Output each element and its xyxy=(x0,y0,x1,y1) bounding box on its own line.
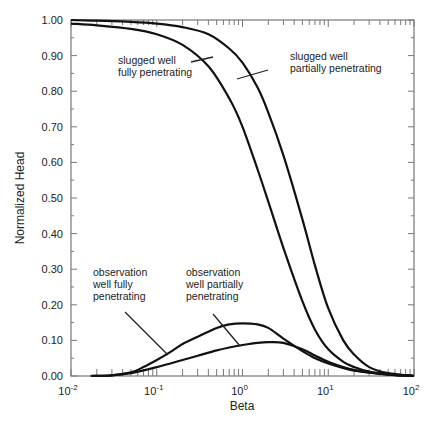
y-tick-label: 0.30 xyxy=(42,263,63,275)
annotation-leader xyxy=(213,314,240,346)
x-axis: 10-210-1100101102 xyxy=(58,20,420,397)
y-tick-label: 0.00 xyxy=(42,370,63,382)
chart: 0.000.100.200.300.400.500.600.700.800.90… xyxy=(0,0,435,427)
series-line xyxy=(91,342,414,376)
x-axis-title: Beta xyxy=(230,399,255,413)
x-tick-label: 102 xyxy=(403,383,420,397)
y-tick-label: 0.70 xyxy=(42,121,63,133)
y-tick-label: 0.20 xyxy=(42,299,63,311)
annotation-text: slugged well xyxy=(290,50,348,62)
annotation-text: observation xyxy=(93,266,147,278)
annotation-text: partially penetrating xyxy=(290,62,382,74)
annotation-text: fully penetrating xyxy=(118,66,192,78)
y-tick-label: 0.50 xyxy=(42,192,63,204)
x-tick-label: 100 xyxy=(231,383,248,397)
annotation-text: well partially xyxy=(185,278,244,290)
annotation-leader xyxy=(191,57,213,62)
y-tick-label: 0.60 xyxy=(42,156,63,168)
annotations: slugged wellfully penetratingslugged wel… xyxy=(92,50,382,355)
x-tick-label: 101 xyxy=(317,383,334,397)
annotation-text: penetrating xyxy=(186,290,239,302)
annotation-leader xyxy=(125,312,168,355)
y-axis-title: Normalized Head xyxy=(13,152,27,245)
y-tick-label: 0.80 xyxy=(42,85,63,97)
annotation-text: well fully xyxy=(92,278,133,290)
y-tick-label: 0.10 xyxy=(42,334,63,346)
series-line xyxy=(91,323,414,376)
y-tick-label: 0.90 xyxy=(42,50,63,62)
y-tick-label: 1.00 xyxy=(42,14,63,26)
annotation-text: slugged well xyxy=(118,54,176,66)
annotation-text: penetrating xyxy=(93,290,146,302)
y-tick-label: 0.40 xyxy=(42,228,63,240)
x-tick-label: 10-2 xyxy=(58,383,78,397)
annotation-text: observation xyxy=(186,266,240,278)
x-tick-label: 10-1 xyxy=(144,383,164,397)
